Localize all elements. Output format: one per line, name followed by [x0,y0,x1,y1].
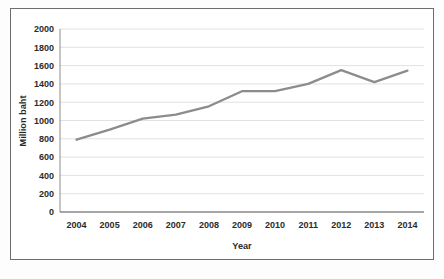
x-tick-label: 2009 [232,220,252,230]
gridlines [60,29,424,212]
x-tick-label: 2005 [100,220,120,230]
x-tick-label: 2007 [166,220,186,230]
line-chart: 0200400600800100012001400160018002000 20… [11,9,432,258]
y-tick-label: 600 [39,152,54,162]
x-tick-labels: 2004200520062007200820092010201120122013… [67,220,418,230]
y-tick-label: 1400 [34,79,54,89]
y-tick-label: 800 [39,134,54,144]
x-tick-label: 2004 [67,220,87,230]
chart-frame: 0200400600800100012001400160018002000 20… [10,8,434,260]
y-tick-labels: 0200400600800100012001400160018002000 [34,24,54,217]
data-series-line [77,70,408,140]
y-tick-label: 200 [39,189,54,199]
y-tick-label: 1800 [34,43,54,53]
y-tick-label: 0 [49,207,54,217]
y-tick-label: 1200 [34,98,54,108]
y-tick-label: 1000 [34,116,54,126]
figure-container: 0200400600800100012001400160018002000 20… [0,0,444,279]
x-tick-label: 2008 [199,220,219,230]
y-tick-label: 2000 [34,24,54,34]
x-tick-label: 2010 [265,220,285,230]
x-tick-label: 2006 [133,220,153,230]
x-tick-label: 2014 [397,220,417,230]
y-tick-label: 1600 [34,61,54,71]
x-tick-label: 2011 [298,220,318,230]
x-tick-label: 2013 [364,220,384,230]
x-axis-title: Year [232,241,252,251]
y-axis-title: Million baht [18,95,28,146]
y-tick-label: 400 [39,171,54,181]
x-tick-label: 2012 [331,220,351,230]
